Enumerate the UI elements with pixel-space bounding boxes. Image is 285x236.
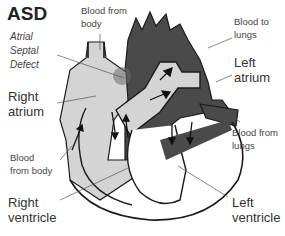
label-right-atrium-1: Right bbox=[8, 90, 38, 105]
label-blood-to-lungs-2: lungs bbox=[234, 30, 257, 41]
label-left-atrium-2: atrium bbox=[234, 71, 270, 86]
label-left-ventricle-1: Left bbox=[232, 196, 254, 211]
label-blood-from-lungs-2: lungs bbox=[232, 141, 255, 152]
label-blood-from-lungs-1: Blood from bbox=[232, 128, 278, 139]
subtitle-defect: Defect bbox=[10, 58, 39, 72]
label-blood-from-body-top-2: body bbox=[81, 19, 102, 30]
label-right-atrium-2: atrium bbox=[8, 105, 44, 120]
label-blood-from-body-top-1: Blood from bbox=[81, 6, 127, 17]
subtitle-septal: Septal bbox=[10, 44, 38, 58]
label-left-atrium-1: Left bbox=[234, 56, 256, 71]
diagram-title: ASD bbox=[7, 3, 47, 25]
label-right-ventricle-2: ventricle bbox=[8, 211, 56, 226]
septal-defect-shadow bbox=[113, 67, 131, 85]
label-right-ventricle-1: Right bbox=[8, 196, 38, 211]
label-blood-from-body-bottom-2: from body bbox=[10, 166, 52, 177]
label-blood-to-lungs-1: Blood to bbox=[234, 17, 269, 28]
subtitle-atrial: Atrial bbox=[10, 30, 33, 44]
label-left-ventricle-2: ventricle bbox=[232, 211, 280, 226]
label-blood-from-body-bottom-1: Blood bbox=[10, 153, 34, 164]
